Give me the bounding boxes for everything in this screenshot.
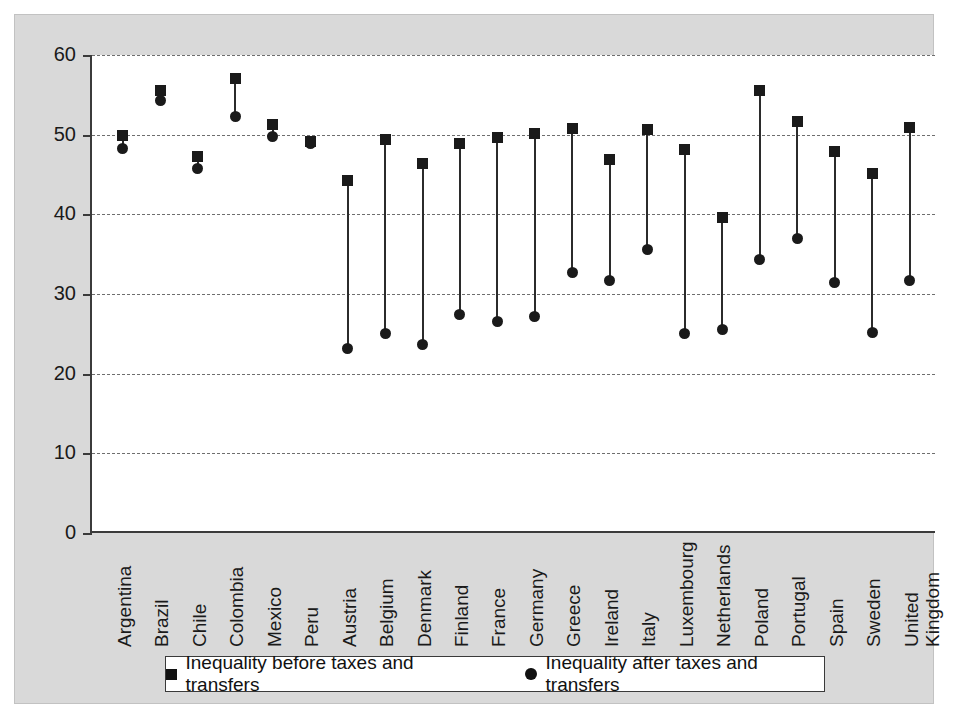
y-axis-tick: [83, 135, 92, 137]
connector-line: [909, 127, 911, 280]
connector-line: [422, 163, 424, 345]
marker-before-taxes: [792, 116, 803, 127]
marker-before-taxes: [829, 146, 840, 157]
gridline: [92, 135, 935, 136]
gridline: [92, 294, 935, 295]
y-axis-tick: [83, 453, 92, 455]
marker-after-taxes: [454, 309, 465, 320]
x-axis-label-line: Peru: [301, 607, 322, 647]
marker-after-taxes: [829, 277, 840, 288]
gridline: [92, 453, 935, 454]
x-axis-label-line: Greece: [563, 585, 584, 647]
marker-before-taxes: [642, 124, 653, 135]
x-axis-label-line: Argentina: [114, 566, 135, 647]
connector-line: [496, 138, 498, 322]
y-axis-tick: [83, 294, 92, 296]
x-axis-label-line: Colombia: [226, 567, 247, 647]
connector-line: [721, 218, 723, 330]
gridline: [92, 374, 935, 375]
x-axis-label-line: Denmark: [414, 570, 435, 647]
marker-before-taxes: [567, 123, 578, 134]
marker-before-taxes: [492, 132, 503, 143]
marker-before-taxes: [305, 136, 316, 147]
marker-before-taxes: [754, 85, 765, 96]
marker-after-taxes: [754, 254, 765, 265]
marker-before-taxes: [342, 175, 353, 186]
plot-frame: [90, 55, 935, 533]
marker-after-taxes: [904, 275, 915, 286]
connector-line: [759, 91, 761, 260]
x-axis-label-line: Italy: [638, 612, 659, 647]
marker-after-taxes: [417, 339, 428, 350]
x-axis-label-line: Finland: [451, 585, 472, 647]
marker-after-taxes: [342, 343, 353, 354]
chart-legend: Inequality before taxes and transfersIne…: [165, 656, 825, 692]
marker-before-taxes: [192, 151, 203, 162]
marker-after-taxes: [492, 316, 503, 327]
y-axis-tick: [83, 214, 92, 216]
marker-before-taxes: [529, 128, 540, 139]
marker-after-taxes: [117, 143, 128, 154]
legend-label: Inequality before taxes and transfers: [186, 652, 480, 696]
marker-after-taxes: [230, 111, 241, 122]
connector-line: [571, 128, 573, 272]
marker-before-taxes: [679, 144, 690, 155]
marker-before-taxes: [454, 138, 465, 149]
x-axis-label-line: Sweden: [863, 578, 884, 647]
marker-after-taxes: [867, 327, 878, 338]
legend-label: Inequality after taxes and transfers: [546, 652, 824, 696]
x-axis-label-line: United: [901, 572, 922, 647]
x-axis-label-line: France: [488, 588, 509, 647]
marker-before-taxes: [604, 154, 615, 165]
x-axis-label-line: Poland: [751, 588, 772, 647]
y-axis-tick-label: 30: [30, 283, 76, 303]
connector-line: [347, 180, 349, 349]
connector-line: [534, 133, 536, 316]
x-axis-label-line: Brazil: [151, 599, 172, 647]
marker-before-taxes: [380, 134, 391, 145]
y-axis-tick-label: 60: [30, 44, 76, 64]
gridline: [92, 214, 935, 215]
x-axis-label-line: Germany: [526, 569, 547, 647]
x-axis-label-line: Belgium: [376, 578, 397, 647]
legend-item: Inequality before taxes and transfers: [166, 652, 479, 696]
y-axis-tick-label: 40: [30, 203, 76, 223]
marker-after-taxes: [642, 244, 653, 255]
legend-item: Inequality after taxes and transfers: [525, 652, 824, 696]
x-axis-label-line: Ireland: [601, 589, 622, 647]
marker-after-taxes: [679, 328, 690, 339]
gridline: [92, 55, 935, 56]
connector-line: [459, 143, 461, 314]
y-axis-labels: 0102030405060: [30, 55, 76, 533]
chart-panel: 0102030405060 ArgentinaBrazilChileColomb…: [14, 14, 934, 704]
x-axis-label-line: Kingdom: [922, 572, 943, 647]
connector-line: [834, 151, 836, 282]
connector-line: [684, 149, 686, 334]
marker-after-taxes: [267, 131, 278, 142]
connector-line: [796, 122, 798, 238]
figure: 0102030405060 ArgentinaBrazilChileColomb…: [0, 0, 955, 720]
x-axis-label-line: Mexico: [264, 587, 285, 647]
marker-after-taxes: [792, 233, 803, 244]
x-axis-label-line: Portugal: [788, 576, 809, 647]
marker-before-taxes: [230, 73, 241, 84]
x-axis-label-line: Austria: [339, 588, 360, 647]
marker-before-taxes: [867, 168, 878, 179]
legend-circle-icon: [525, 668, 536, 680]
marker-after-taxes: [567, 267, 578, 278]
marker-after-taxes: [380, 328, 391, 339]
y-axis-tick: [83, 374, 92, 376]
x-axis-label-line: Spain: [826, 598, 847, 647]
y-axis-tick-label: 50: [30, 124, 76, 144]
marker-before-taxes: [117, 130, 128, 141]
marker-after-taxes: [155, 95, 166, 106]
y-axis-tick-label: 0: [30, 522, 76, 542]
marker-before-taxes: [417, 158, 428, 169]
plot-area: [92, 55, 935, 531]
marker-after-taxes: [529, 311, 540, 322]
y-axis-tick-label: 20: [30, 363, 76, 383]
x-axis-labels: ArgentinaBrazilChileColombiaMexicoPeruAu…: [90, 535, 935, 650]
x-axis-label-line: Chile: [189, 604, 210, 647]
marker-after-taxes: [717, 324, 728, 335]
legend-square-icon: [166, 669, 177, 680]
